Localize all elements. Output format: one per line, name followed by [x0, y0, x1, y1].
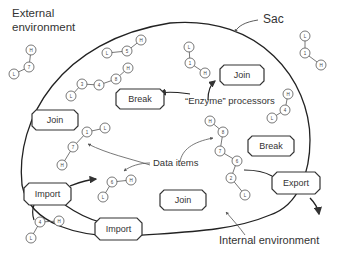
import-arrow [70, 179, 96, 186]
svg-text:H: H [129, 178, 132, 183]
import-bottom-link [65, 205, 100, 222]
external-environment-label-2: environment [12, 21, 76, 33]
processor-import-bottom: Import [95, 218, 142, 240]
svg-text:H: H [126, 66, 129, 71]
export-link [244, 170, 272, 176]
svg-text:Break: Break [259, 141, 283, 151]
processor-break-right: Break [248, 136, 294, 156]
sac-diagram: External environment Sac “Enzyme” proces… [0, 0, 339, 254]
sac-label: Sac [263, 12, 284, 26]
data-items-label: Data items [153, 157, 199, 168]
svg-text:H: H [139, 38, 142, 43]
svg-text:H: H [319, 63, 322, 68]
svg-text:H: H [286, 92, 289, 97]
internal-environment-label: Internal environment [219, 234, 319, 246]
processor-import-left: Import [24, 183, 71, 205]
data-items-pointer-left [88, 144, 150, 165]
data-item-external-bottom-left: L 4 H [26, 216, 64, 243]
enzyme-processors-label: “Enzyme” processors [185, 95, 275, 106]
data-item-internal-near-join: L 1 H [184, 42, 210, 78]
svg-text:H: H [203, 71, 206, 76]
svg-text:Join: Join [234, 70, 251, 80]
svg-text:Break: Break [128, 94, 152, 104]
data-item-internal-center: L 6 H [98, 175, 136, 202]
processor-join-bottom: Join [160, 190, 206, 210]
data-item-external-top-right: L 1 H [300, 31, 326, 70]
svg-text:H: H [60, 163, 63, 168]
sac-pointer [235, 20, 258, 32]
external-environment-label: External [12, 7, 54, 19]
svg-text:Join: Join [47, 115, 64, 125]
data-item-internal-top: L 5 H [102, 35, 146, 58]
data-item-external-top-left: L 7 H [9, 45, 36, 79]
processor-join-top: Join [220, 65, 264, 85]
processor-join-left: Join [32, 110, 78, 130]
data-item-internal-long-chain: H 8 7 6 2 L [205, 116, 250, 200]
svg-text:H: H [29, 48, 32, 53]
svg-text:Export: Export [283, 178, 310, 188]
export-arrow [310, 198, 319, 214]
svg-text:Import: Import [106, 224, 132, 234]
svg-text:H: H [208, 119, 211, 124]
svg-text:H: H [57, 219, 60, 224]
svg-text:Import: Import [35, 189, 61, 199]
processor-export-right: Export [272, 172, 320, 194]
processor-break-top: Break [116, 89, 164, 109]
svg-text:Join: Join [175, 195, 192, 205]
import-tail [33, 205, 35, 220]
